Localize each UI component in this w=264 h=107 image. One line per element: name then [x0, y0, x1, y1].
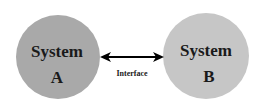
system-b-title: System	[180, 41, 232, 60]
interface-label: Interface	[116, 69, 148, 78]
interface-arrow	[100, 52, 164, 62]
system-b-letter: B	[203, 67, 214, 86]
node-system-a: System A	[16, 15, 100, 99]
node-system-b: System B	[163, 13, 249, 99]
system-a-title: System	[31, 42, 83, 61]
system-a-letter: A	[51, 68, 64, 87]
diagram-canvas: System A System B Interface	[0, 0, 264, 107]
